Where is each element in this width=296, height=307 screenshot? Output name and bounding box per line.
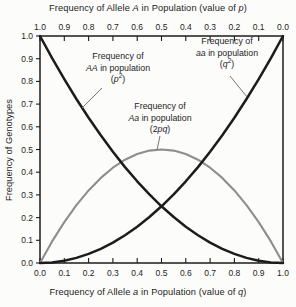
leader-line-aa: [230, 76, 247, 97]
x-axis-bottom-tick-label: 0.2: [83, 268, 95, 278]
y-axis-tick-label: 1.0: [21, 31, 33, 41]
x-axis-bottom-tick-label: 0.7: [204, 268, 216, 278]
annotation-aa-frequency: Frequency of aa in population (q2): [172, 36, 282, 71]
x-axis-top-tick-label: 0.1: [253, 22, 265, 32]
x-axis-bottom-tick-label: 0.6: [180, 268, 192, 278]
annotation-AA-frequency: Frequency of AA in population (p2): [63, 51, 173, 86]
y-axis-tick-label: 0.9: [21, 54, 33, 64]
y-axis-tick-label: 0.4: [21, 167, 33, 177]
bottom-axis-title: Frequency of Allele a in Population (val…: [0, 287, 296, 297]
annotation-AA-line1: Frequency of: [63, 51, 173, 63]
x-axis-top-tick-label: 0.2: [228, 22, 240, 32]
x-axis-top-tick-label: 0.3: [204, 22, 216, 32]
x-axis-bottom-tick-label: 0.9: [253, 268, 265, 278]
x-axis-top-tick-label: 0.8: [83, 22, 95, 32]
x-axis-bottom-tick-label: 0.1: [58, 268, 70, 278]
annotation-aa-formula: (q2): [172, 59, 282, 71]
x-axis-top-tick-label: 0.0: [277, 22, 289, 32]
x-axis-top-tick-label: 0.7: [107, 22, 119, 32]
x-axis-top-tick-label: 1.0: [34, 22, 46, 32]
x-axis-top-tick-label: 0.9: [58, 22, 70, 32]
x-axis-top-tick-label: 0.5: [156, 22, 168, 32]
leader-line-Aa: [157, 136, 160, 150]
annotation-Aa-line1: Frequency of: [105, 101, 215, 113]
annotation-Aa-frequency: Frequency of Aa in population (2pq): [105, 101, 215, 136]
y-axis-tick-label: 0.5: [21, 145, 33, 155]
x-axis-bottom-tick-label: 0.8: [228, 268, 240, 278]
hardy-weinberg-genotype-frequency-figure: Frequency of Allele A in Population (val…: [0, 0, 296, 307]
y-axis-tick-label: 0.2: [21, 213, 33, 223]
x-axis-top-tick-label: 0.4: [180, 22, 192, 32]
x-axis-bottom-tick-label: 0.3: [107, 268, 119, 278]
y-axis-tick-label: 0.7: [21, 99, 33, 109]
x-axis-bottom-tick-label: 0.4: [131, 268, 143, 278]
annotation-Aa-line2: Aa in population: [105, 113, 215, 125]
annotation-AA-formula: (p2): [63, 74, 173, 86]
y-axis-tick-label: 0.6: [21, 122, 33, 132]
x-axis-bottom-tick-label: 0.0: [34, 268, 46, 278]
y-axis-tick-label: 0.8: [21, 76, 33, 86]
y-axis-tick-label: 0.0: [21, 258, 33, 268]
x-axis-bottom-tick-label: 0.5: [156, 268, 168, 278]
leader-line-AA: [82, 88, 102, 108]
annotation-Aa-formula: (2pq): [105, 124, 215, 136]
x-axis-top-tick-label: 0.6: [131, 22, 143, 32]
annotation-aa-line1: Frequency of: [172, 36, 282, 48]
y-axis-tick-label: 0.3: [21, 190, 33, 200]
bottom-axis-title-text: Frequency of Allele: [49, 287, 133, 297]
x-axis-bottom-tick-label: 1.0: [277, 268, 289, 278]
y-axis-tick-label: 0.1: [21, 235, 33, 245]
